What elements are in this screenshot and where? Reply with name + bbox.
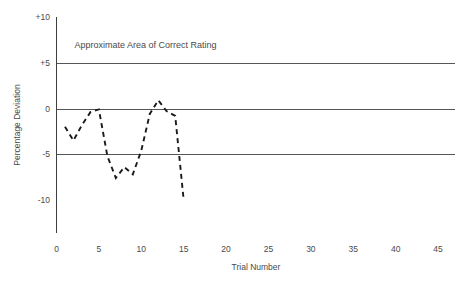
- gridlines: [57, 64, 456, 155]
- chart-annotations: Approximate Area of Correct Rating: [74, 40, 216, 50]
- x-tick-label: 15: [179, 244, 189, 254]
- x-axis-title: Trial Number: [232, 262, 281, 272]
- x-tick-label: 30: [306, 244, 316, 254]
- deviation-line-chart: +10+50-5-10 051015202530354045 Approxima…: [0, 0, 467, 282]
- data-series-line: [65, 100, 184, 200]
- x-tick-label: 20: [221, 244, 231, 254]
- x-tick-label: 35: [349, 244, 359, 254]
- y-tick-label: 0: [45, 104, 50, 114]
- y-tick-label: +5: [40, 58, 50, 68]
- y-tick-label: -10: [38, 195, 51, 205]
- y-tick-label: +10: [36, 12, 51, 22]
- x-tick-label: 10: [137, 244, 147, 254]
- annotation-label: Approximate Area of Correct Rating: [74, 40, 216, 50]
- x-tick-label: 40: [391, 244, 401, 254]
- x-tick-label: 45: [433, 244, 443, 254]
- y-axis-title: Percentage Deviation: [12, 84, 22, 166]
- x-tick-label: 0: [54, 244, 59, 254]
- chart-container: +10+50-5-10 051015202530354045 Approxima…: [0, 0, 467, 282]
- x-tick-label: 5: [97, 244, 102, 254]
- y-tick-label: -5: [42, 149, 50, 159]
- y-axis-tick-labels: +10+50-5-10: [36, 12, 51, 205]
- x-axis-tick-labels: 051015202530354045: [54, 244, 443, 254]
- x-tick-label: 25: [264, 244, 274, 254]
